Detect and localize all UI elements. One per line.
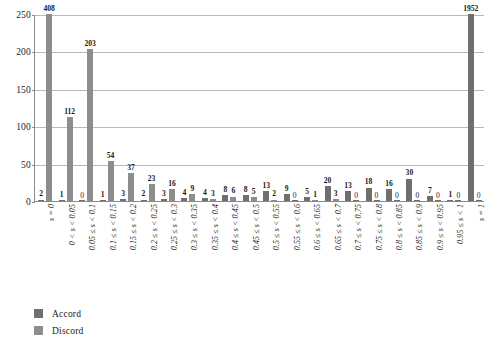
- bar-value-label: 1: [101, 191, 105, 199]
- bar-discord: [189, 194, 195, 201]
- bar-discord: [46, 14, 52, 201]
- bar-accord: [284, 194, 290, 201]
- bar-group: 154: [99, 15, 115, 201]
- x-axis-category-label: 0.2 ≤ s < 0.25: [150, 204, 159, 250]
- plot-area: 050100150200250 240811120203154337223316…: [34, 15, 484, 202]
- bar-accord: [263, 191, 269, 201]
- bar-group: 43: [201, 15, 217, 201]
- bar-group: 2408: [37, 15, 53, 201]
- bar-discord: [414, 200, 420, 201]
- chart-figure: 050100150200250 240811120203154337223316…: [0, 0, 495, 355]
- bar-group: 203: [324, 15, 340, 201]
- bar-discord: [455, 200, 461, 201]
- x-axis-category-label: s = 0: [47, 204, 56, 221]
- bar-value-label: 0: [436, 192, 440, 200]
- bar-group: 86: [221, 15, 237, 201]
- bar-accord: [141, 200, 147, 201]
- bar-value-label: 54: [107, 152, 115, 160]
- bar-series-container: 2408111202031543372233164943868513290512…: [35, 15, 484, 201]
- bar-value-label: 30: [406, 169, 414, 177]
- bar-accord: [468, 14, 474, 201]
- bar-value-label: 0: [477, 192, 481, 200]
- bar-value-label: 2: [142, 190, 146, 198]
- bar-accord: [120, 199, 126, 201]
- x-axis-category-label: 0.05 ≤ s < 0.1: [88, 204, 97, 250]
- bar-value-label: 3: [162, 190, 166, 198]
- y-axis-tick-mark: [32, 202, 35, 203]
- bar-value-label: 20: [324, 177, 332, 185]
- bar-group: 130: [344, 15, 360, 201]
- y-axis-tick-label: 0: [26, 197, 31, 207]
- bar-value-label: 7: [428, 187, 432, 195]
- x-axis-category-label: 0.65 ≤ s < 0.7: [334, 204, 343, 250]
- bar-value-label: 9: [191, 185, 195, 193]
- bar-accord: [59, 200, 65, 201]
- bar-accord: [447, 200, 453, 201]
- bar-discord: [67, 117, 73, 201]
- bar-value-label: 37: [127, 164, 135, 172]
- bar-value-label: 1: [313, 191, 317, 199]
- bar-group: 132: [262, 15, 278, 201]
- bar-value-label: 3: [121, 190, 125, 198]
- bar-group: 70: [426, 15, 442, 201]
- x-axis-category-label: s = 1: [477, 204, 486, 221]
- y-axis-tick-label: 100: [16, 122, 31, 132]
- bar-group: 180: [365, 15, 381, 201]
- x-axis-category-label: 0.15 ≤ s < 0.2: [129, 204, 138, 250]
- bar-discord: [87, 49, 93, 201]
- bar-value-label: 0: [80, 192, 84, 200]
- bar-accord: [406, 179, 412, 201]
- plot-wrapper: 050100150200250 240811120203154337223316…: [0, 0, 495, 300]
- bar-accord: [345, 191, 351, 201]
- bar-value-label: 408: [44, 5, 55, 13]
- bar-value-label: 3: [211, 190, 215, 198]
- bar-accord: [386, 189, 392, 201]
- bar-value-label: 0: [395, 192, 399, 200]
- bar-group: 51: [303, 15, 319, 201]
- bar-accord: [100, 200, 106, 201]
- bar-discord: [353, 200, 359, 201]
- legend-item[interactable]: Accord: [34, 305, 234, 322]
- bar-accord: [79, 200, 85, 201]
- x-axis-category-label: 0.45 ≤ s < 0.5: [252, 204, 261, 250]
- bar-group: 223: [140, 15, 156, 201]
- bar-value-label: 8: [223, 186, 227, 194]
- bar-accord: [222, 195, 228, 201]
- bar-value-label: 1: [448, 191, 452, 199]
- bar-value-label: 16: [168, 180, 176, 188]
- bar-discord: [394, 200, 400, 201]
- bar-group: 300: [405, 15, 421, 201]
- legend-label: Discord: [52, 326, 83, 336]
- bar-accord: [366, 188, 372, 201]
- y-axis-tick-label: 200: [16, 47, 31, 57]
- bar-discord: [210, 199, 216, 201]
- x-axis-category-label: 0.55 ≤ s < 0.6: [293, 204, 302, 250]
- bar-accord: [427, 196, 433, 201]
- legend-swatch-icon: [34, 309, 43, 318]
- bar-group: 85: [242, 15, 258, 201]
- bar-discord: [374, 200, 380, 201]
- bar-value-label: 0: [375, 192, 379, 200]
- bar-discord: [292, 200, 298, 201]
- bar-group: 90: [283, 15, 299, 201]
- bar-value-label: 9: [285, 185, 289, 193]
- bar-value-label: 2: [272, 190, 276, 198]
- x-axis-labels: s = 00 < s < 0.050.05 ≤ s < 0.10.1 ≤ s <…: [34, 204, 484, 300]
- bar-value-label: 112: [64, 108, 75, 116]
- bar-value-label: 0: [354, 192, 358, 200]
- bar-value-label: 0: [293, 192, 297, 200]
- bar-discord: [435, 200, 441, 201]
- x-axis-category-label: 0.25 ≤ s < 0.3: [170, 204, 179, 250]
- bar-value-label: 8: [244, 186, 248, 194]
- bar-group: 49: [180, 15, 196, 201]
- bar-group: 160: [385, 15, 401, 201]
- bar-discord: [230, 197, 236, 201]
- x-axis-category-label: 0.3 ≤ s < 0.35: [190, 204, 199, 250]
- bar-discord: [251, 197, 257, 201]
- bar-value-label: 4: [183, 189, 187, 197]
- bar-group: 0203: [78, 15, 94, 201]
- legend-item[interactable]: Discord: [34, 322, 234, 339]
- y-axis-tick-label: 250: [16, 10, 31, 20]
- bar-group: 10: [446, 15, 462, 201]
- bar-discord: [169, 189, 175, 201]
